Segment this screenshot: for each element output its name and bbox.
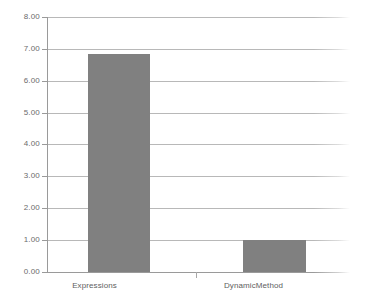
y-axis-tick-label-1: 1.00 [4,236,40,244]
bar-dynamicmethod[interactable] [243,240,306,272]
y-axis-tick-label-5: 5.00 [4,109,40,117]
y-axis-tick-label-4: 4.00 [4,140,40,148]
y-axis-tick-label-8: 8.00 [4,13,40,21]
category-separator-tick [196,272,197,278]
bar-expressions[interactable] [88,54,150,272]
y-axis-tick-label-7: 7.00 [4,45,40,53]
y-axis-tick-labels: 8.00 7.00 6.00 5.00 4.00 3.00 2.00 1.00 … [0,0,40,306]
y-axis-tick-label-3: 3.00 [4,172,40,180]
bar-chart: 8.00 7.00 6.00 5.00 4.00 3.00 2.00 1.00 … [0,0,365,306]
y-axis-tick-label-2: 2.00 [4,204,40,212]
gridline-0-baseline [47,272,350,273]
y-axis-tick-label-6: 6.00 [4,77,40,85]
x-axis-label-dynamicmethod: DynamicMethod [196,282,311,290]
x-axis-label-expressions: Expressions [42,282,147,290]
bars-layer [47,17,350,272]
y-axis-tick-label-0: 0.00 [4,268,40,276]
